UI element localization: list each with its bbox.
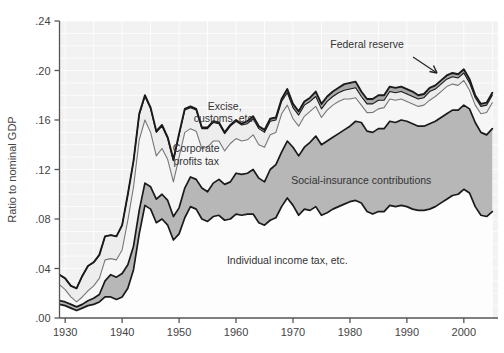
annotation-profits-tax: profits tax	[173, 155, 219, 167]
y-tick-label: .04	[35, 263, 50, 275]
y-axis-title: Ratio to nominal GDP	[6, 116, 18, 222]
annotation-customs-etc: customs, etc.	[194, 112, 256, 124]
annotation-individual-income-tax-etc: Individual income tax, etc.	[227, 254, 348, 266]
x-axis-ticks: 19301940195019601970198019902000	[53, 318, 476, 338]
y-tick-label: .16	[35, 114, 50, 126]
y-tick-label: .24	[35, 15, 50, 27]
x-tick-label: 1940	[110, 326, 134, 338]
annotation-corporate: Corporate	[173, 142, 220, 154]
y-tick-label: .20	[35, 65, 50, 77]
x-tick-label: 2000	[452, 326, 476, 338]
x-tick-label: 1970	[281, 326, 305, 338]
chart-figure: .00.04.08.12.16.20.241930194019501960197…	[0, 0, 504, 353]
annotation-excise: Excise,	[208, 100, 242, 112]
x-tick-label: 1950	[167, 326, 191, 338]
x-tick-label: 1960	[224, 326, 248, 338]
area-chart-svg: .00.04.08.12.16.20.241930194019501960197…	[0, 0, 504, 353]
annotation-social-insurance-contributions: Social-insurance contributions	[291, 174, 431, 186]
y-tick-label: .00	[35, 312, 50, 324]
annotation-federal-reserve: Federal reserve	[330, 38, 404, 50]
x-tick-label: 1980	[338, 326, 362, 338]
y-tick-label: .08	[35, 213, 50, 225]
x-tick-label: 1990	[395, 326, 419, 338]
x-tick-label: 1930	[53, 326, 77, 338]
y-axis-ticks: .00.04.08.12.16.20.24	[35, 15, 59, 324]
y-tick-label: .12	[35, 164, 50, 176]
